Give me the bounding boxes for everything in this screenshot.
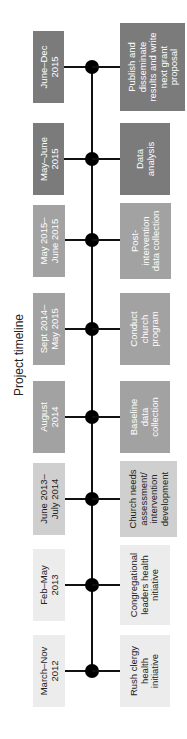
activity-label: Rush clergy health initiative xyxy=(129,646,161,696)
connector-right xyxy=(92,670,120,672)
connector-right xyxy=(92,328,120,330)
date-label: June 2013– July 2014 xyxy=(39,474,60,524)
activity-box: Data analysis xyxy=(120,123,170,195)
date-label: May–June 2015 xyxy=(38,137,59,181)
connector-right xyxy=(92,239,120,241)
date-box: Sept 2014– May 2015 xyxy=(33,293,65,365)
date-label: Sept 2014– May 2015 xyxy=(39,305,60,354)
date-label: August 2014 xyxy=(39,402,60,432)
activity-box: Congregational leaders health nitiative xyxy=(120,545,170,625)
activity-box: Conduct church program xyxy=(120,293,170,365)
date-box: June–Dec 2015 xyxy=(33,31,64,103)
date-label: May 2015– June 2015 xyxy=(39,217,60,264)
date-box: Feb–May 2013 xyxy=(33,549,65,621)
activity-label: Congregational leaders health nitiative xyxy=(129,553,161,617)
activity-label: Data analysis xyxy=(135,142,156,176)
connector-right xyxy=(92,584,120,586)
date-box: May 2015– June 2015 xyxy=(33,205,65,277)
activity-label: Post- intervention data collection xyxy=(130,211,162,272)
connector-right xyxy=(92,66,120,68)
date-box: May–June 2015 xyxy=(33,123,64,195)
activity-box: Church needs assessment/ intervention de… xyxy=(120,461,177,537)
date-label: June–Dec 2015 xyxy=(38,46,59,89)
diagram-title: Project timeline xyxy=(12,316,26,396)
activity-label: Conduct church program xyxy=(129,311,161,346)
date-label: March–Nov 2012 xyxy=(39,647,60,696)
activity-label: Publish and disseminate results and writ… xyxy=(126,32,179,101)
date-label: Feb–May 2013 xyxy=(39,565,60,605)
connector-right xyxy=(92,158,120,160)
connector-right xyxy=(92,498,120,500)
date-box: June 2013– July 2014 xyxy=(33,463,65,535)
date-box: August 2014 xyxy=(33,381,65,453)
activity-label: Baseline data collection xyxy=(129,397,161,437)
activity-box: Rush clergy health initiative xyxy=(120,635,170,707)
activity-box: Publish and disseminate results and writ… xyxy=(120,23,185,111)
activity-label: Church needs assessment/ intervention de… xyxy=(128,469,170,528)
connector-right xyxy=(92,416,120,418)
activity-box: Baseline data collection xyxy=(120,381,170,453)
date-box: March–Nov 2012 xyxy=(33,635,65,707)
activity-box: Post- intervention data collection xyxy=(120,203,171,279)
